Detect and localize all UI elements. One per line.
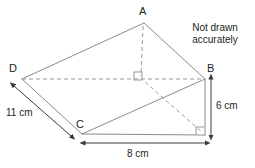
dimension-label-6cm: 6 cm [216,100,238,112]
note-line-2: accurately [181,34,249,46]
edge-A-to-foot-hidden [141,26,143,76]
vertex-label-D: D [9,62,17,75]
edge-foot-to-corner-hidden [145,82,203,133]
vertex-label-B: B [207,62,214,75]
diagram-canvas: A B C D 11 cm 6 cm 8 cm Not drawn accura… [0,0,255,168]
right-angle-markers [134,72,204,135]
dimension-label-11cm: 11 cm [6,107,33,119]
vertex-label-A: A [139,5,146,18]
edge-DA [22,23,144,79]
dimension-arrows [14,79,211,143]
edge-CE [82,134,205,135]
vertex-label-C: C [76,118,84,131]
note-line-1: Not drawn [181,22,249,34]
not-drawn-accurately-note: Not drawn accurately [181,22,249,45]
dimension-label-8cm: 8 cm [127,148,149,160]
edge-CB [82,79,205,134]
